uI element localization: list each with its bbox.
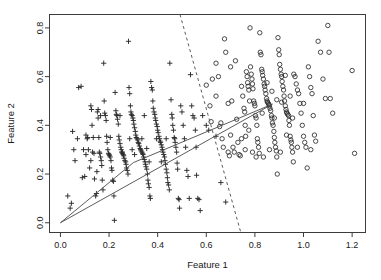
data-point-plus [123, 162, 128, 167]
data-point-circle [294, 82, 298, 86]
data-point-circle [313, 139, 317, 143]
data-point-plus [149, 85, 154, 90]
data-point-plus [161, 152, 166, 157]
data-point-circle [277, 62, 281, 66]
data-point-plus [107, 153, 112, 158]
data-point-plus [176, 197, 181, 202]
data-point-plus [101, 61, 106, 66]
data-point-circle [247, 128, 251, 132]
data-point-circle [323, 96, 327, 100]
data-point-plus [179, 109, 184, 114]
data-point-plus [116, 122, 121, 127]
data-point-plus [132, 125, 137, 130]
data-point-circle [250, 77, 254, 81]
data-point-plus [174, 150, 179, 155]
data-point-plus [133, 129, 138, 134]
data-point-plus [119, 147, 124, 152]
data-point-plus [133, 132, 138, 137]
x-tick-label: 0.2 [103, 240, 116, 250]
data-point-circle [239, 137, 243, 141]
data-point-circle [272, 129, 276, 133]
data-point-plus [96, 107, 101, 112]
data-point-plus [155, 124, 160, 129]
data-point-plus [98, 154, 103, 159]
y-axis-title: Feature 2 [5, 103, 16, 144]
data-point-circle [250, 82, 254, 86]
data-point-plus [168, 97, 173, 102]
x-tick-label: 0.4 [151, 240, 164, 250]
data-point-plus [178, 103, 183, 108]
data-point-plus [75, 136, 80, 141]
data-point-circle [307, 74, 311, 78]
data-point-circle [258, 31, 262, 35]
data-point-plus [122, 158, 127, 163]
data-point-circle [328, 96, 332, 100]
data-point-circle [221, 145, 225, 149]
data-point-plus [165, 180, 170, 185]
data-point-plus [156, 134, 161, 139]
data-point-plus [188, 72, 193, 77]
data-point-circle [233, 59, 237, 63]
data-point-plus [128, 103, 133, 108]
data-point-plus [92, 176, 97, 181]
data-point-plus [154, 122, 159, 127]
data-point-circle [267, 147, 271, 151]
data-point-circle [295, 145, 299, 149]
data-point-circle [352, 151, 356, 155]
data-point-circle [305, 166, 309, 170]
data-point-circle [280, 79, 284, 83]
data-point-circle [249, 72, 253, 76]
data-point-plus [192, 115, 197, 120]
data-point-plus [100, 178, 105, 183]
data-point-circle [260, 111, 264, 115]
data-point-plus [170, 123, 175, 128]
data-point-plus [146, 181, 151, 186]
data-point-plus [167, 187, 172, 192]
data-point-circle [237, 152, 241, 156]
data-point-circle [216, 74, 220, 78]
data-point-plus [136, 140, 141, 145]
data-point-circle [299, 111, 303, 115]
data-point-plus [223, 199, 228, 204]
data-point-plus [106, 152, 111, 157]
series-class-circle [204, 23, 357, 176]
y-tick-label: 0.8 [36, 22, 46, 35]
data-point-plus [127, 136, 132, 141]
data-point-circle [245, 74, 249, 78]
data-point-plus [194, 173, 199, 178]
data-point-plus [89, 123, 94, 128]
data-point-plus [155, 128, 160, 133]
data-point-plus [176, 196, 181, 201]
data-point-circle [304, 145, 308, 149]
data-point-plus [184, 168, 189, 173]
data-point-plus [126, 85, 131, 90]
data-point-plus [200, 113, 205, 118]
data-point-circle [301, 134, 305, 138]
data-point-circle [288, 94, 292, 98]
data-point-plus [143, 162, 148, 167]
data-point-plus [177, 206, 182, 211]
data-point-plus [147, 185, 152, 190]
data-point-plus [151, 109, 156, 114]
data-point-circle [312, 133, 316, 137]
data-point-plus [88, 158, 93, 163]
data-point-plus [130, 113, 135, 118]
data-point-circle [309, 147, 313, 151]
series-class-plus [65, 39, 228, 223]
data-point-plus [120, 150, 125, 155]
data-point-circle [261, 155, 265, 159]
x-tick-label: 0.0 [54, 240, 67, 250]
data-point-circle [316, 39, 320, 43]
data-point-plus [171, 128, 176, 133]
data-point-circle [243, 123, 247, 127]
data-point-circle [300, 123, 304, 127]
data-point-plus [97, 150, 102, 155]
data-point-plus [134, 136, 139, 141]
data-point-circle [321, 77, 325, 81]
data-point-plus [109, 168, 114, 173]
data-point-plus [145, 178, 150, 183]
data-point-plus [195, 196, 200, 201]
data-point-circle [243, 147, 247, 151]
data-point-circle [236, 140, 240, 144]
data-point-circle [238, 154, 242, 158]
